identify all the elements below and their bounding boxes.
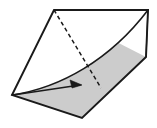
figure-root bbox=[0, 0, 157, 128]
folded-prism-diagram bbox=[0, 0, 157, 128]
